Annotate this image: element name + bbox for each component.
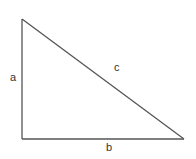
side-c-line xyxy=(22,19,184,139)
side-a-label: a xyxy=(10,72,16,83)
triangle-diagram: a c b xyxy=(0,0,196,159)
triangle-shape xyxy=(0,0,196,159)
side-c-label: c xyxy=(114,62,120,73)
side-b-label: b xyxy=(106,142,112,153)
